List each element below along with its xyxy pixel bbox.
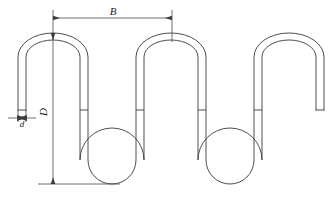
dimension-D: D	[37, 33, 120, 184]
wire-body	[18, 33, 324, 184]
dimension-D-label: D	[37, 108, 49, 117]
drawing-canvas: B D d	[0, 0, 334, 202]
dimension-d-label: d	[20, 119, 25, 129]
technical-drawing-svg: B D d	[0, 0, 334, 202]
wire-inner-contour	[26, 40, 316, 160]
wire-outer-contour	[18, 33, 324, 184]
dimension-d: d	[8, 110, 36, 129]
dimension-B-label: B	[110, 5, 117, 17]
